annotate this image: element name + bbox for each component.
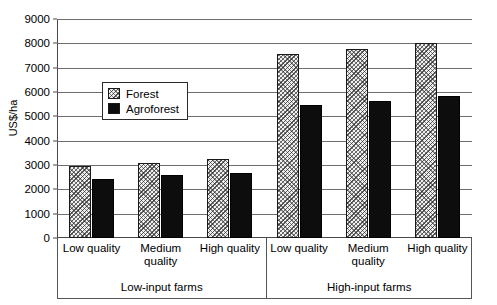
y-tick-label: 3000 — [24, 159, 50, 171]
bar-agroforest — [92, 179, 114, 238]
bar-forest — [207, 159, 229, 238]
bar-forest — [346, 49, 368, 238]
y-tick-label: 5000 — [24, 110, 50, 122]
y-axis-title: US$/ha — [7, 83, 19, 153]
bar-agroforest — [438, 96, 460, 238]
bar-agroforest — [369, 101, 391, 238]
y-tick-label: 7000 — [24, 62, 50, 74]
bar-agroforest — [300, 105, 322, 238]
y-tick-label: 8000 — [24, 37, 50, 49]
y-tick-label: 0 — [44, 232, 50, 244]
y-tick-label: 1000 — [24, 208, 50, 220]
bar-chart: US$/ha 010002000300040005000600070008000… — [0, 0, 497, 305]
y-tick-label: 9000 — [24, 13, 50, 25]
bar-forest — [277, 54, 299, 238]
group-band: Low-input farmsHigh-input farms — [57, 238, 472, 299]
legend-swatch-forest-icon — [108, 88, 120, 99]
legend-label-agroforest: Agroforest — [126, 103, 179, 115]
y-tick-label: 4000 — [24, 135, 50, 147]
y-tick-label: 6000 — [24, 86, 50, 98]
legend-item-forest: Forest — [108, 86, 179, 101]
bar-agroforest — [161, 175, 183, 238]
bars-layer — [57, 19, 472, 238]
legend-item-agroforest: Agroforest — [108, 101, 179, 116]
plot-area: 0100020003000400050006000700080009000 — [57, 19, 472, 238]
bar-agroforest — [230, 173, 252, 238]
bar-forest — [415, 43, 437, 238]
legend: Forest Agroforest — [102, 82, 188, 120]
group-label: Low-input farms — [58, 281, 266, 293]
group-label: High-input farms — [266, 281, 474, 293]
bar-forest — [138, 163, 160, 238]
legend-swatch-agroforest-icon — [108, 103, 120, 114]
y-tick-label: 2000 — [24, 183, 50, 195]
legend-label-forest: Forest — [126, 88, 159, 100]
bar-forest — [69, 166, 91, 239]
